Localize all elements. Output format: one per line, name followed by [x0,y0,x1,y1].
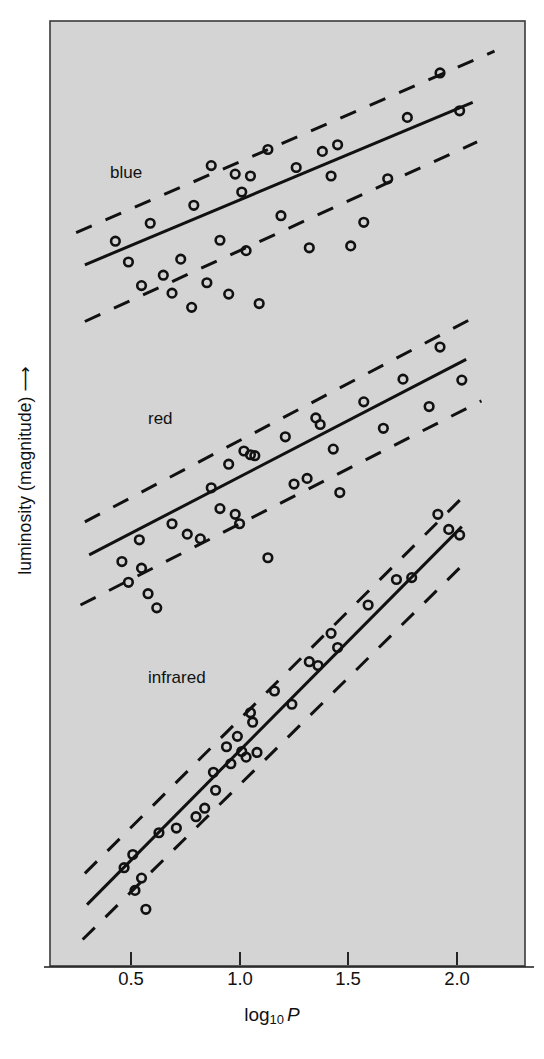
y-axis-label: luminosity (magnitude) ⟶ [15,241,36,701]
x-axis-tick-label: 1.5 [335,968,361,990]
x-axis-tick-label: 0.5 [118,968,144,990]
x-axis-tick-labels: 0.51.01.52.0 [0,968,544,996]
x-axis-tick-label: 1.0 [227,968,253,990]
x-axis-label-subscript: 10 [270,1012,284,1027]
x-axis-tick-label: 2.0 [444,968,470,990]
period-luminosity-chart [0,0,544,1059]
figure-root: luminosity (magnitude) ⟶ 0.51.01.52.0 lo… [0,0,544,1059]
series-label-infrared: infrared [148,668,206,688]
series-label-blue: blue [110,163,142,183]
series-label-red: red [148,409,173,429]
x-axis-label-variable: P [284,1004,300,1025]
x-axis-label-main: log [244,1004,269,1025]
x-axis-label: log10P [0,1004,544,1027]
